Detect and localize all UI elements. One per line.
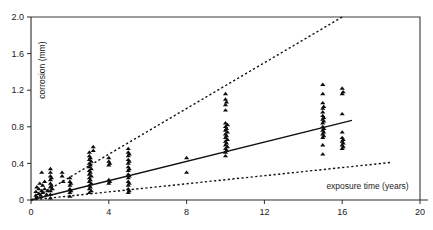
x-tick-label: 20 (415, 207, 425, 217)
data-point-marker (223, 97, 228, 100)
data-point-marker (320, 114, 325, 117)
data-point-marker (184, 170, 189, 173)
data-point-marker (42, 180, 47, 183)
data-point-marker (42, 187, 47, 190)
data-point-marker (60, 170, 65, 173)
data-point-marker (106, 178, 111, 181)
data-point-marker (106, 159, 111, 162)
data-point-marker (341, 90, 346, 93)
data-point-marker (320, 143, 325, 146)
data-point-marker (320, 152, 325, 155)
data-point-marker (126, 165, 131, 168)
corrosion-scatter-figure: 00.40.81.21.62.0048121620 corrosion (mm)… (0, 0, 433, 230)
data-point-marker (48, 167, 53, 170)
data-point-marker (340, 112, 345, 115)
data-point-marker (37, 181, 42, 184)
data-point-marker (320, 83, 325, 86)
x-tick-label: 8 (184, 207, 189, 217)
data-point-marker (320, 110, 325, 113)
data-point-marker (106, 156, 111, 159)
x-tick-label: 0 (28, 207, 33, 217)
data-point-marker (126, 187, 131, 190)
y-tick-label: 1.2 (11, 85, 24, 95)
y-tick-label: 1.6 (11, 49, 24, 59)
x-tick-label: 4 (106, 207, 111, 217)
data-point-marker (48, 170, 53, 173)
data-point-marker (48, 174, 53, 177)
data-point-marker (223, 154, 228, 157)
data-point-marker (223, 92, 228, 95)
data-point-marker (126, 147, 131, 150)
data-point-marker (320, 125, 325, 128)
y-tick-label: 0.8 (11, 122, 24, 132)
data-point-marker (48, 196, 53, 199)
y-axis-title: corrosion (mm) (37, 41, 47, 98)
x-tick-label: 16 (337, 207, 347, 217)
data-point-marker (126, 158, 131, 161)
data-point-marker (340, 130, 345, 133)
data-point-marker (321, 105, 326, 108)
data-point-marker (67, 180, 72, 183)
plot-canvas: 00.40.81.21.62.0048121620 corrosion (mm)… (0, 0, 433, 230)
x-tick-label: 12 (259, 207, 269, 217)
data-point-marker (126, 150, 131, 153)
data-point-marker (340, 136, 345, 139)
x-axis-title: exposure time (years) (326, 181, 408, 191)
y-tick-label: 2.0 (11, 12, 24, 22)
data-point-marker (320, 101, 325, 104)
data-point-marker (39, 170, 44, 173)
data-point-marker (91, 148, 96, 151)
data-points (33, 83, 346, 200)
data-point-marker (60, 180, 65, 183)
data-point-marker (340, 86, 345, 89)
data-point-marker (126, 172, 131, 175)
y-tick-label: 0.4 (11, 159, 24, 169)
data-point-marker (91, 145, 96, 148)
data-point-marker (87, 150, 92, 153)
y-tick-label: 0 (19, 195, 24, 205)
mean-regression-line (31, 120, 352, 200)
data-point-marker (184, 156, 189, 159)
data-point-marker (67, 187, 72, 190)
data-point-marker (126, 180, 131, 183)
data-point-marker (48, 181, 53, 184)
data-point-marker (320, 92, 325, 95)
axis-labels: corrosion (mm)exposure time (years) (37, 41, 409, 191)
data-point-marker (223, 108, 228, 111)
data-point-marker (87, 154, 92, 157)
data-point-marker (60, 174, 65, 177)
trend-lines (31, 17, 391, 200)
